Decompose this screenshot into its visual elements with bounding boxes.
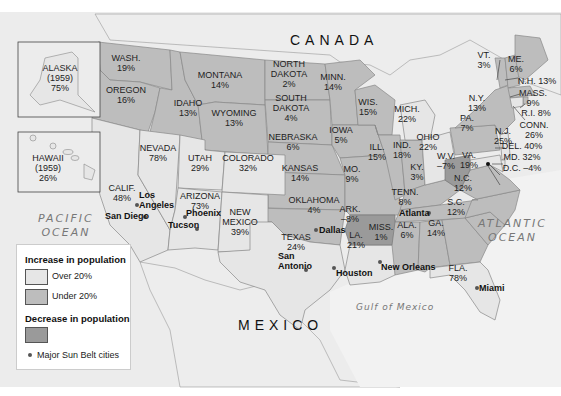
state-label-nd: NORTH DAKOTA 2% xyxy=(271,59,307,89)
city-label-houston: Houston xyxy=(336,268,373,278)
state-label-calif: CALIF. 48% xyxy=(108,183,135,203)
state-label-idaho: IDAHO 13% xyxy=(174,98,203,118)
legend-swatch-under20 xyxy=(25,289,48,305)
state-label-utah: UTAH 29% xyxy=(188,153,212,173)
country-label-mexico: MEXICO xyxy=(238,317,323,333)
city-label-tucson: Tucson xyxy=(168,220,199,230)
state-label-nebraska: NEBRASKA 6% xyxy=(268,132,317,152)
state-label-kansas: KANSAS 14% xyxy=(282,163,319,183)
city-dot-dallas xyxy=(314,228,318,232)
state-label-wash: WASH. 19% xyxy=(111,53,140,73)
legend-swatch-over20 xyxy=(25,269,48,285)
state-label-pa: PA. 7% xyxy=(460,113,474,133)
state-label-dc: D.C. –4% xyxy=(503,163,542,173)
city-label-dallas: Dallas xyxy=(319,225,346,235)
inset-label-hawaii: HAWAII (1959) 26% xyxy=(32,153,63,183)
state-label-oklahoma: OKLAHOMA 4% xyxy=(288,195,339,215)
state-label-sd: SOUTH DAKOTA 4% xyxy=(273,93,309,123)
state-label-wis: WIS. 15% xyxy=(358,97,378,117)
state-label-montana: MONTANA 14% xyxy=(198,70,242,90)
state-label-texas: TEXAS 24% xyxy=(281,232,311,252)
state-label-conn: CONN. 26% xyxy=(520,120,549,140)
state-label-wyoming: WYOMING 13% xyxy=(212,108,257,128)
legend-increase-title: Increase in population xyxy=(25,254,126,265)
state-label-sc: S.C. 12% xyxy=(447,197,465,217)
state-label-ri: R.I. 8% xyxy=(521,108,551,118)
city-label-atlanta: Atlanta xyxy=(399,208,430,218)
legend-label-cities: Major Sun Belt cities xyxy=(37,350,119,360)
state-label-iowa: IOWA 5% xyxy=(329,125,353,145)
state-label-nc: N.C. 12% xyxy=(454,173,472,193)
legend-label-under20: Under 20% xyxy=(52,291,97,301)
state-label-va: VA. 19% xyxy=(460,150,478,170)
state-label-minn: MINN. 14% xyxy=(320,72,346,92)
state-label-ga: GA. 14% xyxy=(427,218,445,238)
legend-decrease-title: Decrease in population xyxy=(25,313,130,324)
state-label-oregon: OREGON 16% xyxy=(106,85,146,105)
state-label-del: DEL. 40% xyxy=(502,141,543,151)
inset-label-alaska: ALASKA (1959) 75% xyxy=(42,63,77,93)
state-label-mo: MO. 9% xyxy=(344,164,361,184)
state-label-newmexico: NEW MEXICO 39% xyxy=(222,207,258,237)
country-label-canada: CANADA xyxy=(290,32,378,48)
city-label-san-diego: San Diego xyxy=(105,211,149,221)
state-label-md: MD. 32% xyxy=(503,152,540,162)
state-label-wv: W.V. –7% xyxy=(437,151,455,171)
state-label-ind: IND. 18% xyxy=(393,140,411,160)
state-label-vt: VT. 3% xyxy=(477,50,490,70)
state-label-tenn: TENN. 8% xyxy=(392,187,419,207)
state-label-ny: N.Y. 13% xyxy=(468,93,486,113)
city-label-los-angeles: Los Angeles xyxy=(139,190,174,210)
state-label-nh: N.H. 13% xyxy=(518,76,557,86)
state-label-me: ME. 6% xyxy=(508,54,524,74)
state-label-colorado: COLORADO 32% xyxy=(222,153,274,173)
legend-city-dot-icon xyxy=(28,353,32,357)
city-label-new-orleans: New Orleans xyxy=(381,262,436,272)
map-legend: Increase in population Over 20% Under 20… xyxy=(16,244,131,370)
state-label-mich: MICH. 22% xyxy=(394,104,420,124)
state-label-nevada: NEVADA 78% xyxy=(140,143,176,163)
state-label-la: LA. 21% xyxy=(347,230,365,250)
legend-label-over20: Over 20% xyxy=(52,271,92,281)
state-label-ky: KY. 3% xyxy=(410,162,423,182)
city-label-phoenix: Phoenix xyxy=(186,208,221,218)
ocean-label-atlantic: ATLANTIC OCEAN xyxy=(478,217,547,245)
city-label-san-antonio: San Antonio xyxy=(278,251,312,271)
city-label-miami: Miami xyxy=(479,283,505,293)
state-label-ohio: OHIO 22% xyxy=(416,132,439,152)
ocean-label-pacific: PACIFIC OCEAN xyxy=(38,212,94,240)
state-label-mass: MASS. 9% xyxy=(519,88,547,108)
legend-swatch-decrease xyxy=(25,327,48,343)
state-label-fla: FLA. 78% xyxy=(448,263,467,283)
state-label-miss: MISS. 1% xyxy=(369,222,394,242)
water-label-gulf: Gulf of Mexico xyxy=(356,300,434,314)
state-label-ala: ALA. 6% xyxy=(397,220,417,240)
state-label-ark: ARK. –8% xyxy=(339,204,360,224)
state-label-ill: ILL. 15% xyxy=(368,142,386,162)
